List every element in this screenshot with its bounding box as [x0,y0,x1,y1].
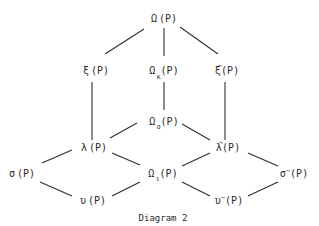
edge-omega-iota-upsilon [112,182,140,196]
node-omega-sigma: Ωσ(P) [149,116,178,131]
edge-omega-xi [105,29,144,54]
node-upsilon-tilde: υ~(P) [215,194,243,206]
nodes: Ω(P) ξ(P) Ωκ(P) ξ~(P) Ωσ(P) λ(P) [9,13,308,206]
edge-omega-sigma-lambda [110,123,137,138]
edge-omega-xi-tilde [180,27,218,54]
node-omega-iota: Ωι(P) [148,168,177,183]
diagram-caption: Diagram 2 [139,213,188,223]
edge-omega-sigma-lambda-tilde [182,124,210,140]
edge-sigma-upsilon [40,182,72,196]
node-lambda: λ(P) [81,142,107,153]
node-sigma-tilde: σ~(P) [280,167,308,179]
node-xi: ξ(P) [83,65,109,76]
edge-omega-iota-upsilon-tilde [182,182,210,196]
lattice-diagram: Ω(P) ξ(P) Ωκ(P) ξ~(P) Ωσ(P) λ(P) [0,0,319,226]
edge-sigma-tilde-upsilon-tilde [248,182,278,196]
node-upsilon: υ(P) [80,195,106,206]
node-xi-tilde: ξ~(P) [215,62,239,76]
node-lambda-tilde: λ~(P) [216,139,240,153]
node-omega: Ω(P) [151,13,177,24]
edge-lambda-omega-iota [112,153,140,165]
edge-lambda-tilde-omega-iota [182,153,210,166]
node-sigma: σ(P) [9,168,35,179]
edge-lambda-tilde-sigma-tilde [248,153,278,166]
node-omega-kappa: Ωκ(P) [149,65,178,81]
edge-lambda-sigma [42,150,72,163]
diagram-canvas: Ω(P) ξ(P) Ωκ(P) ξ~(P) Ωσ(P) λ(P) [0,0,319,226]
